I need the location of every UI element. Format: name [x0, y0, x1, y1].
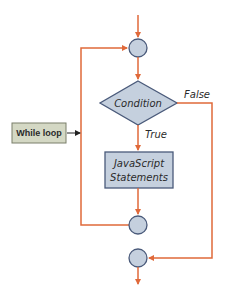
false-label: False: [184, 89, 210, 100]
statements-label-line1: JavaScript: [112, 158, 165, 169]
loop-back-edge: [81, 48, 129, 225]
statements-label-line2: Statements: [110, 172, 168, 183]
entry-junction-node: [129, 39, 147, 57]
condition-label: Condition: [114, 98, 162, 109]
while-loop-flowchart: Condition False True JavaScript Statemen…: [0, 0, 230, 303]
true-label: True: [145, 129, 167, 140]
while-loop-callout-label: While loop: [16, 128, 62, 138]
exit-junction-node: [129, 249, 147, 267]
loop-junction-node: [129, 216, 147, 234]
